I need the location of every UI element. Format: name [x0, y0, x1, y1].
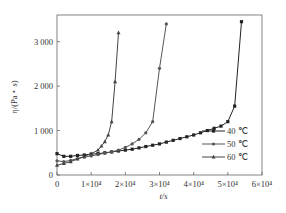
viscosity-time-chart: 01×10⁴2×10⁴3×10⁴4×10⁴5×10⁴6×10⁴01 0002 0…: [0, 0, 286, 213]
series-square: [55, 20, 243, 158]
series-circle: [55, 22, 168, 163]
legend-label: 50 ℃: [227, 139, 248, 149]
y-axis-label: η/(Pa・s): [9, 80, 19, 113]
x-tick-label: 4×10⁴: [183, 179, 204, 189]
plot-frame: [57, 15, 262, 175]
y-tick-label: 0: [49, 170, 53, 180]
y-tick-label: 3 000: [34, 37, 53, 47]
chart-svg: 01×10⁴2×10⁴3×10⁴4×10⁴5×10⁴6×10⁴01 0002 0…: [0, 0, 286, 213]
x-tick-label: 1×10⁴: [81, 179, 102, 189]
y-tick-label: 2 000: [34, 81, 53, 91]
x-tick-label: 5×10⁴: [218, 179, 239, 189]
x-axis-label: t/s: [159, 191, 168, 201]
x-tick-label: 6×10⁴: [252, 179, 273, 189]
legend-label: 60 ℃: [227, 152, 248, 162]
x-tick-label: 3×10⁴: [149, 179, 170, 189]
x-tick-label: 0: [55, 179, 59, 189]
series-triangle: [55, 31, 121, 167]
y-tick-label: 1 000: [34, 126, 53, 136]
legend-label: 40 ℃: [227, 126, 248, 136]
legend: 40 ℃50 ℃60 ℃: [202, 126, 248, 162]
x-tick-label: 2×10⁴: [115, 179, 136, 189]
